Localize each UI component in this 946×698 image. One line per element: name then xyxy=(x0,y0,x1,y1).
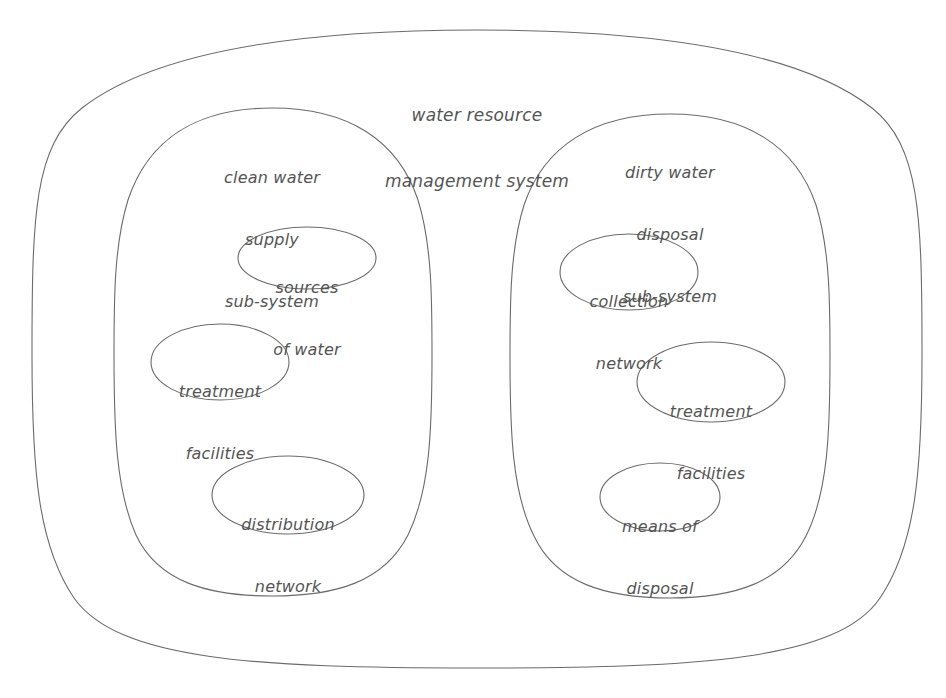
distribution-network-label-line-2: network xyxy=(213,577,363,598)
system-title: water resource management system xyxy=(337,60,617,237)
treatment-facilities-clean-label-line-1: treatment xyxy=(150,382,290,403)
system-title-line-1: water resource xyxy=(337,104,617,126)
system-title-line-2: management system xyxy=(337,170,617,192)
dirty-water-subsystem-title-line-1: dirty water xyxy=(585,163,755,184)
clean-water-subsystem-title-line-1: clean water xyxy=(187,168,357,189)
distribution-network-label: distribution network xyxy=(213,473,363,639)
sources-of-water-label-line-1: sources xyxy=(237,278,377,299)
means-of-disposal-label-line-1: means of xyxy=(595,517,725,538)
treatment-facilities-clean-label-line-2: facilities xyxy=(150,444,290,465)
diagram-canvas: water resource management system clean w… xyxy=(0,0,946,698)
distribution-network-label-line-1: distribution xyxy=(213,515,363,536)
means-of-disposal-label: means of disposal xyxy=(595,475,725,641)
dirty-water-subsystem-title-line-2: disposal xyxy=(585,225,755,246)
collection-network-label-line-1: collection xyxy=(559,292,699,313)
means-of-disposal-label-line-2: disposal xyxy=(595,579,725,600)
treatment-facilities-dirty-label-line-1: treatment xyxy=(641,402,781,423)
